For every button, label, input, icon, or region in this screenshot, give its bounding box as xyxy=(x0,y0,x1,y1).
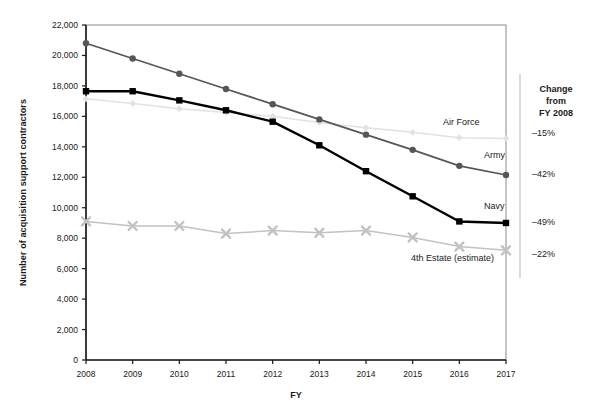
data-point xyxy=(316,116,322,122)
change-value-army: –42% xyxy=(532,169,555,179)
y-tick-label: 0 xyxy=(73,355,78,365)
data-point xyxy=(363,168,369,174)
series-navy xyxy=(83,88,509,226)
x-tick-label: 2017 xyxy=(497,369,516,379)
series-line xyxy=(86,221,506,250)
data-point xyxy=(83,40,89,46)
y-axis-title: Number of acquisition support contractor… xyxy=(18,99,28,286)
data-point xyxy=(503,172,509,178)
y-tick-label: 12,000 xyxy=(52,172,78,182)
series-line xyxy=(86,43,506,175)
y-tick-label: 4,000 xyxy=(57,294,79,304)
series-label-army: Army xyxy=(484,150,505,160)
data-point xyxy=(456,218,462,224)
data-point xyxy=(176,105,183,112)
series-army xyxy=(83,40,509,178)
y-tick-label: 20,000 xyxy=(52,50,78,60)
data-point xyxy=(409,129,416,136)
y-tick-label: 18,000 xyxy=(52,81,78,91)
data-point xyxy=(129,88,135,94)
change-value-air-force: –15% xyxy=(532,128,555,138)
series-label-navy: Navy xyxy=(484,201,505,211)
data-point xyxy=(223,107,229,113)
change-panel-header-line1: Change xyxy=(539,84,572,94)
data-point xyxy=(176,97,182,103)
x-tick-label: 2011 xyxy=(217,369,236,379)
data-point xyxy=(503,220,509,226)
plot-frame xyxy=(86,25,506,360)
y-tick-label: 16,000 xyxy=(52,111,78,121)
data-point xyxy=(269,101,275,107)
series-4th-estate-estimate xyxy=(82,217,510,254)
change-value-navy: –49% xyxy=(532,217,555,227)
data-point xyxy=(503,135,510,142)
y-tick-label: 6,000 xyxy=(57,264,79,274)
data-point xyxy=(269,118,275,124)
data-point xyxy=(223,86,229,92)
x-tick-label: 2014 xyxy=(357,369,376,379)
y-tick-label: 14,000 xyxy=(52,142,78,152)
x-tick-label: 2012 xyxy=(263,369,282,379)
x-tick-label: 2013 xyxy=(310,369,329,379)
data-point xyxy=(129,100,136,107)
y-tick-label: 10,000 xyxy=(52,203,78,213)
x-tick-label: 2008 xyxy=(77,369,96,379)
series-label-4th-estate-estimate: 4th Estate (estimate) xyxy=(411,253,494,263)
data-point xyxy=(83,88,89,94)
x-tick-label: 2009 xyxy=(123,369,142,379)
data-point xyxy=(129,55,135,61)
data-point xyxy=(316,142,322,148)
data-point xyxy=(176,71,182,77)
change-panel-header-line2: from xyxy=(546,96,566,106)
series-label-air-force: Air Force xyxy=(443,117,480,127)
y-tick-label: 22,000 xyxy=(52,20,78,30)
chart-container: 02,0004,0006,0008,00010,00012,00014,0001… xyxy=(0,0,594,414)
change-panel-header-line3: FY 2008 xyxy=(539,108,573,118)
data-point xyxy=(363,131,369,137)
data-point xyxy=(83,95,90,102)
x-tick-label: 2010 xyxy=(170,369,189,379)
y-tick-label: 8,000 xyxy=(57,233,79,243)
data-point xyxy=(409,147,415,153)
x-tick-label: 2016 xyxy=(450,369,469,379)
data-point xyxy=(363,124,370,131)
x-axis-title: FY xyxy=(290,390,302,400)
data-point xyxy=(456,134,463,141)
x-tick-label: 2015 xyxy=(403,369,422,379)
data-point xyxy=(456,163,462,169)
y-tick-label: 2,000 xyxy=(57,325,79,335)
data-point xyxy=(409,193,415,199)
line-chart: 02,0004,0006,0008,00010,00012,00014,0001… xyxy=(0,0,594,414)
change-value-4th-estate-estimate: –22% xyxy=(532,249,555,259)
